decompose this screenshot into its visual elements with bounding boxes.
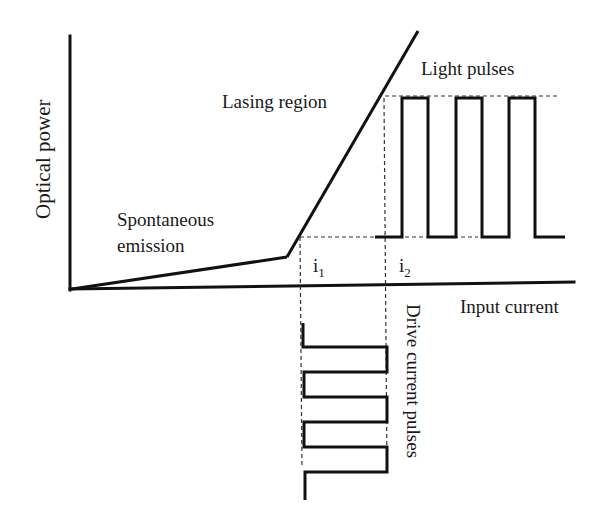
y-axis-label: Optical power [31, 99, 55, 219]
i1-subscript: 1 [318, 265, 325, 280]
drive-current-pulses-waveform [303, 323, 387, 500]
i2-subscript: 2 [404, 265, 411, 280]
drive-current-pulses-label: Drive current pulses [403, 304, 424, 458]
x-axis [70, 282, 574, 289]
x-axis-label: Input current [460, 296, 559, 317]
guide-i1-vertical [300, 237, 302, 468]
spontaneous-emission-segment [72, 257, 287, 289]
lasing-region-label: Lasing region [222, 91, 328, 112]
lasing-region-segment [287, 31, 418, 257]
light-pulses-waveform [375, 98, 565, 237]
i2-marker-label: i2 [399, 255, 411, 280]
laser-characteristic-diagram: Optical power Input current Spontaneous … [0, 0, 602, 523]
spontaneous-label-line1: Spontaneous [117, 209, 214, 230]
spontaneous-label-line2: emission [117, 235, 185, 256]
i1-marker-label: i1 [313, 255, 325, 280]
light-pulses-label: Light pulses [421, 58, 514, 79]
